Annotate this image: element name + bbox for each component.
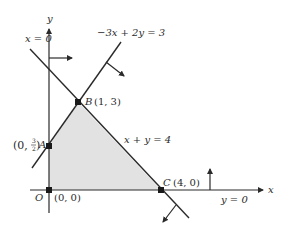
label-x-eq-0: x = 0 [25,33,52,44]
vertex-O [46,187,52,193]
arrow-neg3x-plus-2y-direction [106,62,124,76]
label-x-plus-y-eq-4: x + y = 4 [124,134,171,145]
y-axis-label: y [46,13,53,24]
vertex-A [46,143,52,149]
label-y-eq-0: y = 0 [220,194,248,205]
point-C-name: C [163,177,171,188]
feasible-region [49,102,161,190]
arrow-x-plus-y-direction [163,205,176,222]
label-neg3x-plus-2y-eq-3: −3x + 2y = 3 [97,27,165,38]
point-C-coords: (4, 0) [173,177,200,188]
point-B-coords: (1, 3) [94,96,121,107]
vertex-B [75,99,81,105]
x-axis-label: x [268,184,274,195]
feasible-region-diagram: x y x = 0 −3x + 2y = 3 x + y = 4 y = 0 O… [0,0,285,242]
point-O-name: O [35,192,43,203]
point-A-name: A [38,139,46,150]
point-A-coords-prefix: (0, [13,139,28,152]
point-B-name: B [84,96,92,107]
point-O-coords: (0, 0) [54,192,81,203]
